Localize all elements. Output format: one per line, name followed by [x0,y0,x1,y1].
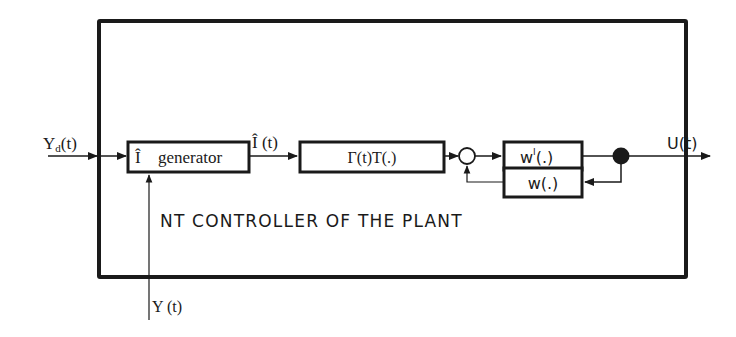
controller-title: NT CONTROLLER OF THE PLANT [160,211,463,231]
branch-node [613,148,630,165]
nt-controller-diagram: Yd(t) Î generator Y (t) Î (t) Γ(t)T(.) w… [0,0,736,337]
w-inverse-label: wI(.) [520,147,553,167]
w-label: w(.) [528,174,559,193]
generator-label: generator [158,148,223,167]
i-hat-signal-label: Î (t) [252,133,278,152]
yd-input-label: Yd(t) [43,134,77,154]
y-measured-label: Y (t) [152,298,182,316]
summing-junction [459,148,475,164]
output-label: U(t) [667,134,697,153]
feedback-w-to-sum-line [467,166,503,182]
generator-symbol: Î [135,148,141,167]
gamma-t-label: Γ(t)T(.) [348,149,397,167]
feedback-node-to-w-line [585,164,621,182]
